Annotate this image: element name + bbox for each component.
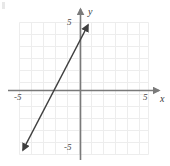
- y-axis-tick-label-positive: 5: [67, 18, 72, 27]
- x-axis-name-label: x: [160, 94, 164, 104]
- y-axis-tick-label-negative: -5: [64, 143, 72, 152]
- grid-lines: [20, 23, 149, 155]
- y-axis-name-label: y: [88, 7, 92, 17]
- graph-figure: 5 -5 5 -5 x y: [0, 0, 170, 166]
- x-axis-tick-label-positive: 5: [143, 93, 148, 102]
- coordinate-plane-svg: [0, 0, 170, 166]
- x-axis-tick-label-negative: -5: [14, 93, 22, 102]
